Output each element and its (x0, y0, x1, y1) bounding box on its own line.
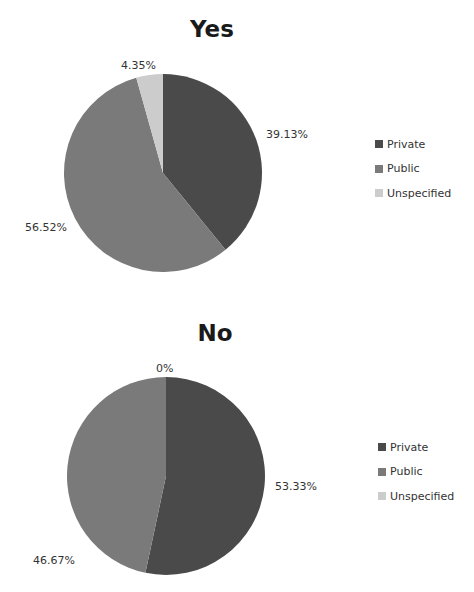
pie-chart-no: No 53.33% 46.67% 0% Private Public Unspe… (0, 300, 474, 592)
legend-item-private: Private (375, 132, 451, 157)
legend-item-public: Public (375, 157, 451, 182)
slice-label-unspecified: 4.35% (121, 59, 156, 72)
slice-label-public: 56.52% (25, 221, 67, 234)
legend: Private Public Unspecified (378, 435, 454, 509)
swatch-icon (378, 443, 386, 451)
slice-label-public: 46.67% (33, 554, 75, 567)
pie-chart-yes: Yes 39.13% 56.52% 4.35% Private Public U… (0, 0, 474, 296)
slice-label-private: 39.13% (266, 128, 308, 141)
swatch-icon (375, 165, 383, 173)
slice-label-unspecified: 0% (156, 362, 173, 375)
swatch-icon (375, 189, 383, 197)
swatch-icon (378, 468, 386, 476)
legend-item-private: Private (378, 435, 454, 460)
slice-label-private: 53.33% (275, 480, 317, 493)
swatch-icon (378, 492, 386, 500)
legend: Private Public Unspecified (375, 132, 451, 206)
swatch-icon (375, 140, 383, 148)
legend-item-unspecified: Unspecified (375, 181, 451, 206)
slice-public (67, 377, 166, 573)
legend-item-public: Public (378, 460, 454, 485)
legend-item-unspecified: Unspecified (378, 484, 454, 509)
